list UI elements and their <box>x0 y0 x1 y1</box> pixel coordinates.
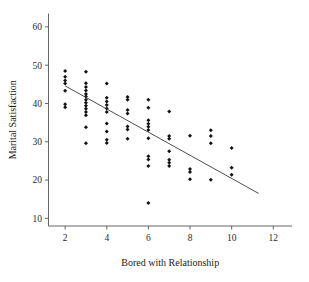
data-point <box>84 113 88 117</box>
data-point <box>84 85 88 89</box>
data-point <box>105 82 109 86</box>
data-point <box>105 96 109 100</box>
data-point <box>167 137 171 141</box>
data-point <box>188 177 192 181</box>
x-tick-label: 2 <box>63 233 68 243</box>
y-axis-title: Marital Satisfaction <box>7 80 18 159</box>
y-axis-ticks: 102030405060 <box>33 22 49 223</box>
y-tick-label: 50 <box>33 61 43 71</box>
data-point <box>146 106 150 110</box>
data-point <box>63 105 67 109</box>
data-point <box>126 108 130 112</box>
x-tick-label: 10 <box>227 233 237 243</box>
x-tick-label: 6 <box>146 233 151 243</box>
y-tick-label: 60 <box>33 22 43 32</box>
data-point <box>105 110 109 114</box>
x-tick-label: 8 <box>188 233 193 243</box>
y-tick-label: 10 <box>33 214 43 224</box>
data-point <box>146 201 150 205</box>
data-point <box>126 137 130 141</box>
data-point <box>105 129 109 133</box>
x-tick-label: 12 <box>269 233 279 243</box>
x-axis-ticks: 24681012 <box>63 226 278 243</box>
data-point <box>63 75 67 79</box>
data-point <box>105 100 109 104</box>
data-point <box>84 110 88 114</box>
data-point <box>188 170 192 174</box>
y-tick-label: 20 <box>33 175 43 185</box>
data-point <box>63 82 67 86</box>
data-point <box>84 88 88 92</box>
data-point <box>84 125 88 129</box>
y-tick-label: 40 <box>33 99 43 109</box>
data-point <box>146 136 150 140</box>
data-point <box>209 128 213 132</box>
y-tick-label: 30 <box>33 137 43 147</box>
data-point <box>126 98 130 102</box>
data-point <box>105 121 109 125</box>
data-point <box>230 166 234 170</box>
data-point <box>146 157 150 161</box>
data-points <box>63 69 233 205</box>
data-point <box>167 149 171 153</box>
data-point <box>167 164 171 168</box>
data-point <box>209 178 213 182</box>
data-point <box>188 134 192 138</box>
data-point <box>230 173 234 177</box>
regression-line <box>65 86 259 194</box>
data-point <box>209 141 213 145</box>
data-point <box>63 89 67 93</box>
data-point <box>105 103 109 107</box>
data-point <box>146 164 150 168</box>
x-tick-label: 4 <box>104 233 109 243</box>
data-point <box>230 146 234 150</box>
scatter-plot-figure: 102030405060 24681012 Bored with Relatio… <box>0 0 309 282</box>
data-point <box>84 141 88 145</box>
data-point <box>167 110 171 114</box>
data-point <box>63 69 67 73</box>
axes <box>49 14 293 227</box>
data-point <box>126 111 130 115</box>
x-axis-title: Bored with Relationship <box>121 257 219 268</box>
data-point <box>146 118 150 122</box>
data-point <box>105 141 109 145</box>
plot-canvas: 102030405060 24681012 Bored with Relatio… <box>0 0 309 282</box>
data-point <box>209 134 213 138</box>
data-point <box>84 70 88 74</box>
data-point <box>146 98 150 102</box>
data-point <box>84 81 88 85</box>
data-point <box>126 128 130 132</box>
